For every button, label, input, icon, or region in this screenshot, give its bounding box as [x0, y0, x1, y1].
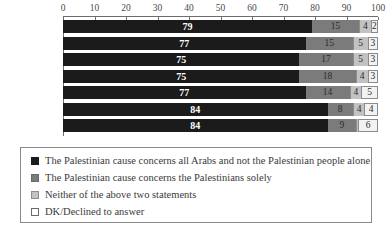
- legend-swatch-icon: [31, 174, 39, 182]
- x-tick-mark: [252, 17, 253, 20]
- bar-segment[interactable]: 9: [328, 119, 356, 132]
- bar-segment-value: 5: [367, 86, 372, 99]
- legend-label: DK/Declined to answer: [45, 205, 144, 219]
- bar-segment[interactable]: 75: [63, 70, 299, 83]
- x-tick-label: 30: [146, 3, 170, 14]
- x-tick-label: 40: [177, 3, 201, 14]
- bar-segment-value: 6: [366, 119, 371, 132]
- bar-segment[interactable]: 4: [353, 103, 366, 116]
- bar-row[interactable]: 2012/201384844: [63, 103, 378, 116]
- bar-segment-value: 14: [323, 86, 333, 99]
- bar-segment[interactable]: 84: [63, 119, 328, 132]
- bar-rows-container: 2019/20207915422017/20187715532016751753…: [63, 20, 378, 136]
- x-tick-mark: [284, 17, 285, 20]
- x-tick-label: 80: [303, 3, 327, 14]
- bar-segment-value: 75: [176, 53, 186, 66]
- bar-segment[interactable]: 8: [328, 103, 353, 116]
- x-tick-mark: [378, 17, 379, 20]
- x-tick-mark: [126, 17, 127, 20]
- bar-segment-value: 77: [179, 37, 189, 50]
- bar-segment-value: 17: [321, 53, 331, 66]
- bar-segment[interactable]: 15: [306, 37, 353, 50]
- bar-segment[interactable]: 2: [372, 20, 378, 33]
- bar-segment[interactable]: 4: [350, 86, 363, 99]
- x-tick-label: 20: [114, 3, 138, 14]
- legend-swatch-icon: [31, 191, 39, 199]
- bar-segment[interactable]: 6: [359, 119, 378, 132]
- bar-segment-value: 5: [358, 53, 363, 66]
- legend-label: Neither of the above two statements: [45, 188, 196, 202]
- legend-label: The Palestinian cause concerns all Arabs…: [45, 154, 370, 168]
- bar-segment-value: 75: [176, 70, 186, 83]
- bar-segment-value: 3: [370, 37, 375, 50]
- bar-segment-value: 15: [331, 20, 341, 33]
- bar-segment-value: 79: [182, 20, 192, 33]
- bar-segment-value: 4: [363, 20, 368, 33]
- bar-segment-value: 4: [354, 86, 359, 99]
- bar-segment-value: 9: [339, 119, 344, 132]
- bar-row[interactable]: 2019/2020791542: [63, 20, 378, 33]
- bar-segment-value: 3: [370, 53, 375, 66]
- bar-segment-value: 3: [370, 70, 375, 83]
- bar-segment-value: 77: [179, 86, 189, 99]
- bar-segment-value: 4: [360, 70, 365, 83]
- x-tick-label: 60: [240, 3, 264, 14]
- x-tick-mark: [158, 17, 159, 20]
- bar-segment-value: 2: [372, 20, 377, 33]
- bar-segment[interactable]: 77: [63, 37, 306, 50]
- x-tick-label: 100: [366, 3, 390, 14]
- chart-legend: The Palestinian cause concerns all Arabs…: [20, 147, 372, 223]
- x-tick-label: 50: [209, 3, 233, 14]
- bar-segment-value: 8: [338, 103, 343, 116]
- bar-segment[interactable]: 4: [365, 103, 378, 116]
- bar-segment-value: 18: [323, 70, 333, 83]
- bar-segment[interactable]: 79: [63, 20, 312, 33]
- bar-segment-value: 84: [190, 103, 200, 116]
- x-tick-mark: [347, 17, 348, 20]
- bar-segment[interactable]: 5: [362, 86, 378, 99]
- bar-segment-value: 4: [357, 103, 362, 116]
- bar-segment[interactable]: 17: [299, 53, 353, 66]
- stacked-bar-chart: 0102030405060708090100 2019/202079154220…: [0, 0, 390, 245]
- plot-area: 0102030405060708090100 2019/202079154220…: [0, 0, 390, 140]
- bar-segment[interactable]: 14: [306, 86, 350, 99]
- bar-row[interactable]: 2014771445: [63, 86, 378, 99]
- bar-segment[interactable]: 4: [359, 20, 372, 33]
- legend-swatch-icon: [31, 157, 39, 165]
- bar-row[interactable]: 2015751843: [63, 70, 378, 83]
- bar-segment[interactable]: 15: [312, 20, 359, 33]
- x-tick-mark: [95, 17, 96, 20]
- bar-row[interactable]: 2017/2018771553: [63, 37, 378, 50]
- bar-segment[interactable]: 3: [369, 70, 378, 83]
- bar-segment-value: 5: [358, 37, 363, 50]
- bar-segment[interactable]: 5: [353, 53, 369, 66]
- bar-segment[interactable]: 3: [369, 37, 378, 50]
- bar-segment[interactable]: 5: [353, 37, 369, 50]
- legend-item[interactable]: DK/Declined to answer: [31, 205, 371, 221]
- bar-segment-value: 4: [369, 103, 374, 116]
- legend-item[interactable]: The Palestinian cause concerns all Arabs…: [31, 154, 371, 170]
- legend-item[interactable]: Neither of the above two statements: [31, 188, 371, 204]
- x-tick-label: 90: [335, 3, 359, 14]
- bar-segment[interactable]: 18: [299, 70, 356, 83]
- x-tick-label: 70: [272, 3, 296, 14]
- legend-item[interactable]: The Palestinian cause concerns the Pales…: [31, 171, 371, 187]
- bar-segment[interactable]: 3: [369, 53, 378, 66]
- bar-segment-value: 84: [190, 119, 200, 132]
- x-tick-label: 0: [51, 3, 75, 14]
- bar-segment[interactable]: 4: [356, 70, 369, 83]
- bar-segment[interactable]: 75: [63, 53, 299, 66]
- x-tick-mark: [221, 17, 222, 20]
- bar-segment[interactable]: 77: [63, 86, 306, 99]
- bar-segment-value: 15: [324, 37, 334, 50]
- bar-row[interactable]: 20118496: [63, 119, 378, 132]
- x-tick-mark: [189, 17, 190, 20]
- legend-swatch-icon: [31, 208, 39, 216]
- x-axis-tick-labels: 0102030405060708090100: [63, 3, 378, 16]
- x-tick-mark: [315, 17, 316, 20]
- bar-row[interactable]: 2016751753: [63, 53, 378, 66]
- x-tick-mark: [63, 17, 64, 20]
- legend-label: The Palestinian cause concerns the Pales…: [45, 171, 272, 185]
- bar-segment[interactable]: 84: [63, 103, 328, 116]
- x-tick-label: 10: [83, 3, 107, 14]
